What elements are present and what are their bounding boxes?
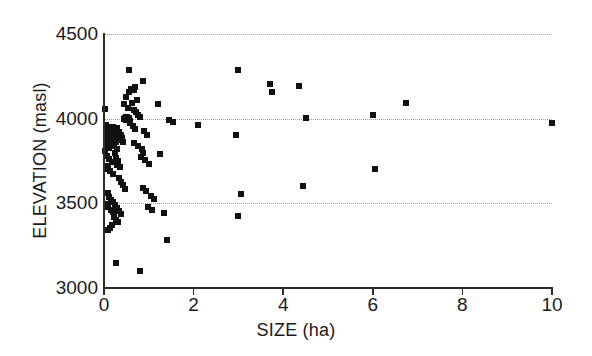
data-point bbox=[144, 132, 150, 138]
data-point bbox=[149, 207, 155, 213]
data-point bbox=[300, 183, 306, 189]
x-tick-label-10: 10 bbox=[532, 294, 572, 316]
x-tick-label-4: 4 bbox=[263, 294, 303, 316]
data-point bbox=[126, 67, 132, 73]
data-point bbox=[110, 171, 116, 177]
data-point bbox=[303, 115, 309, 121]
data-point bbox=[161, 210, 167, 216]
x-axis-line bbox=[103, 287, 553, 289]
data-point bbox=[137, 114, 143, 120]
data-point bbox=[132, 126, 138, 132]
data-point bbox=[117, 164, 123, 170]
data-point bbox=[157, 151, 163, 157]
data-point bbox=[151, 196, 157, 202]
x-tick-label-2: 2 bbox=[174, 294, 214, 316]
data-point bbox=[238, 191, 244, 197]
data-point bbox=[235, 67, 241, 73]
y-axis-title: ELEVATION (masl) bbox=[30, 41, 51, 281]
data-point bbox=[122, 186, 128, 192]
data-point bbox=[132, 84, 138, 90]
data-point bbox=[370, 112, 376, 118]
scatter-plot-figure: 0246810 4500 4000 3500 3000 SIZE (ha) EL… bbox=[0, 0, 592, 356]
data-point bbox=[134, 97, 140, 103]
y-tick-label-3000: 3000 bbox=[18, 278, 98, 298]
data-point bbox=[235, 213, 241, 219]
data-point bbox=[296, 83, 302, 89]
data-point bbox=[403, 100, 409, 106]
data-point bbox=[120, 139, 126, 145]
plot-data-area bbox=[104, 34, 552, 288]
data-point bbox=[267, 81, 273, 87]
data-point bbox=[115, 219, 121, 225]
data-point bbox=[155, 101, 161, 107]
data-point bbox=[195, 122, 201, 128]
data-point bbox=[146, 161, 152, 167]
data-point bbox=[269, 89, 275, 95]
x-tick-label-8: 8 bbox=[442, 294, 482, 316]
data-point bbox=[170, 119, 176, 125]
data-point bbox=[125, 105, 131, 111]
data-point bbox=[549, 120, 555, 126]
data-point bbox=[164, 237, 170, 243]
data-point bbox=[372, 166, 378, 172]
x-tick-label-6: 6 bbox=[353, 294, 393, 316]
data-point bbox=[113, 260, 119, 266]
data-point bbox=[140, 78, 146, 84]
x-axis-title: SIZE (ha) bbox=[0, 320, 592, 341]
data-point bbox=[105, 227, 111, 233]
data-point bbox=[137, 268, 143, 274]
data-point bbox=[118, 211, 124, 217]
y-axis-line bbox=[103, 33, 105, 289]
data-point bbox=[123, 94, 129, 100]
data-point bbox=[233, 132, 239, 138]
